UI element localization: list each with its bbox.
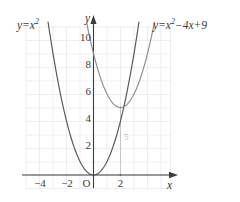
y-tick-label-4: 4 bbox=[78, 113, 91, 124]
x-axis-label: x bbox=[167, 180, 172, 192]
y-axis-label: y bbox=[85, 13, 90, 25]
x-tick-label-minus-4: −4 bbox=[32, 178, 48, 189]
curve-label-left-exponent: 2 bbox=[35, 17, 39, 26]
segment-length-label: 5 bbox=[124, 133, 129, 142]
x-tick-label-minus-2: −2 bbox=[59, 178, 75, 189]
y-tick-label-6: 6 bbox=[78, 86, 91, 97]
curve-label-right-prefix: y=x bbox=[153, 19, 171, 31]
y-tick-label-10: 10 bbox=[73, 32, 91, 43]
curve-label-left: y=x2 bbox=[17, 18, 39, 31]
y-tick-label-8: 8 bbox=[78, 59, 91, 70]
curve-label-right: y=x2−4x+9 bbox=[153, 18, 207, 31]
origin-label: O bbox=[80, 178, 93, 189]
graph-figure: y=x2 y=x2−4x+9 y x O −4 −2 2 2 4 6 8 10 … bbox=[0, 0, 240, 202]
curve-label-left-text: y=x bbox=[17, 19, 35, 31]
y-axis-arrow bbox=[90, 15, 96, 24]
curve-label-right-suffix: −4x+9 bbox=[175, 19, 207, 31]
x-axis-arrow bbox=[169, 172, 178, 178]
x-tick-label-2: 2 bbox=[114, 178, 127, 189]
y-tick-label-2: 2 bbox=[78, 140, 91, 151]
